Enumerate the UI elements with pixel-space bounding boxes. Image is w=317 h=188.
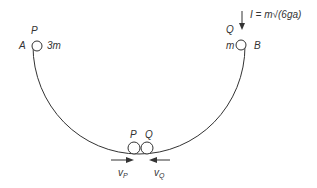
label-velocity-q: vQ: [154, 167, 165, 180]
diagram-canvas: P A 3m Q m B I = m√(6ga) P Q vP vQ: [0, 0, 317, 188]
label-p-bottom: P: [130, 129, 137, 140]
semicircular-track: [33, 46, 245, 154]
particle-p-top: [32, 41, 42, 51]
label-q-top: Q: [226, 24, 234, 35]
label-a: A: [18, 40, 26, 51]
impulse-arrow-icon: [239, 11, 245, 30]
particle-q-top: [236, 40, 246, 50]
label-p-top: P: [31, 25, 38, 36]
particle-p-bottom: [128, 142, 140, 154]
velocity-q-arrow-icon: [149, 157, 170, 163]
label-velocity-p: vP: [118, 167, 128, 179]
particle-q-bottom: [141, 142, 153, 154]
label-mass-p: 3m: [47, 40, 61, 51]
label-b: B: [254, 40, 261, 51]
label-mass-q: m: [226, 40, 234, 51]
label-q-bottom: Q: [145, 129, 153, 140]
label-impulse: I = m√(6ga): [250, 9, 301, 20]
velocity-p-arrow-icon: [111, 157, 134, 163]
